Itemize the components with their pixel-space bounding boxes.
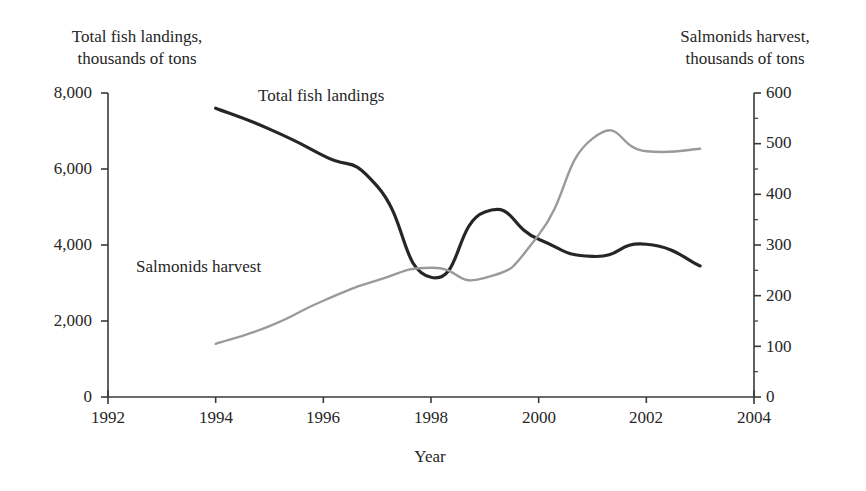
plot-canvas — [0, 0, 866, 491]
series-layer — [216, 108, 701, 344]
series-line-total-fish-landings — [216, 108, 701, 278]
series-line-salmonids-harvest — [216, 130, 701, 344]
chart-figure: Total fish landings, thousands of tons S… — [0, 0, 866, 491]
